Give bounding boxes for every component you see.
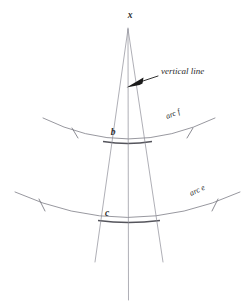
arrow-head-icon bbox=[127, 78, 144, 88]
vertical-line-annotation-label: vertical line bbox=[161, 66, 204, 76]
arc-f-curve bbox=[43, 118, 215, 139]
point-b-label: b bbox=[111, 127, 116, 137]
arc-f-label: arc f bbox=[164, 106, 183, 120]
arc-e-chord bbox=[98, 220, 160, 222]
left-slant-line bbox=[95, 29, 128, 262]
apex-label: x bbox=[127, 10, 133, 20]
vertical-line bbox=[128, 28, 129, 300]
arc-f-group bbox=[43, 118, 215, 144]
apex-lines-group bbox=[95, 28, 163, 300]
arc-e-label: arc e bbox=[188, 183, 207, 198]
figure-container: x b c vertical line arc f arc e bbox=[0, 0, 250, 306]
arc-e-curve bbox=[15, 192, 240, 218]
arc-e-tick-right bbox=[212, 199, 218, 211]
geometry-diagram: x b c vertical line arc f arc e bbox=[0, 0, 250, 306]
arc-f-tick-right bbox=[187, 128, 193, 138]
right-slant-line bbox=[128, 29, 163, 262]
arc-e-group bbox=[15, 192, 240, 223]
arc-f-tick-left bbox=[72, 128, 78, 138]
vertical-line-annotation-arrow bbox=[127, 76, 159, 88]
arc-e-tick-left bbox=[39, 199, 45, 211]
